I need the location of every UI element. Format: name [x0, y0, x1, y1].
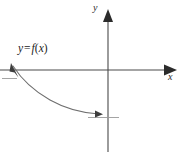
x-axis — [0, 65, 177, 76]
function-label-close-paren: ) — [44, 42, 48, 54]
function-label: y=f(x) — [18, 43, 48, 55]
coordinate-plane-svg — [0, 0, 186, 158]
y-axis-arrowhead-icon — [103, 9, 113, 22]
graph-figure: y x y=f(x) — [0, 0, 186, 158]
y-axis-label: y — [93, 3, 97, 13]
curve-end-arrowhead-icon — [95, 111, 103, 118]
function-curve — [10, 63, 104, 118]
x-axis-label: x — [168, 72, 172, 82]
function-curve-path — [13, 66, 99, 114]
y-axis — [103, 9, 113, 152]
function-label-equals: = — [23, 42, 32, 54]
